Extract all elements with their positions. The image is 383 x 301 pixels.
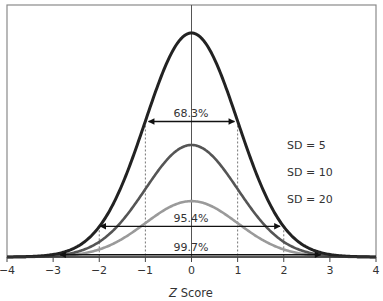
- tick-label: −1: [137, 264, 153, 277]
- tick-label: −2: [91, 264, 107, 277]
- tick-label: −3: [45, 264, 61, 277]
- label-68-3: 68.3%: [174, 107, 209, 120]
- x-axis-ticks: [7, 257, 376, 262]
- x-axis-title-rest: Score: [177, 286, 213, 300]
- label-99-7: 99.7%: [174, 241, 209, 254]
- legend-sd-20: SD = 20: [287, 193, 333, 206]
- legend-sd-10: SD = 10: [287, 166, 333, 179]
- tick-label: −4: [0, 264, 15, 277]
- legend-sd-5: SD = 5: [287, 139, 326, 152]
- tick-label: 4: [373, 264, 380, 277]
- tick-label: 0: [188, 264, 195, 277]
- label-95-4: 95.4%: [174, 212, 209, 225]
- tick-label: 1: [235, 264, 242, 277]
- tick-label: 3: [327, 264, 334, 277]
- tick-label: 2: [281, 264, 288, 277]
- normal-distribution-chart: 68.3% 95.4% 99.7% SD = 5 SD = 10 SD = 20…: [0, 0, 383, 301]
- x-axis-title: Z Score: [168, 286, 213, 300]
